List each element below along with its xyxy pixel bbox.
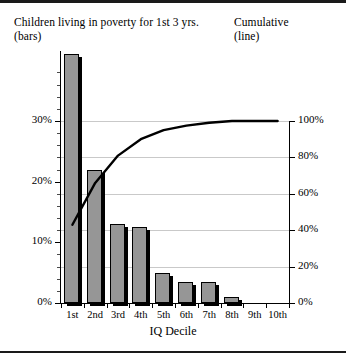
y-axis-left-line <box>60 51 61 304</box>
y-axis-left-tick-label: 0% <box>37 295 52 307</box>
x-axis-tick <box>289 304 290 308</box>
y-axis-right-line <box>289 121 290 304</box>
y-axis-right-tick-label: 0% <box>298 295 313 307</box>
y-axis-left-minor-tick <box>57 218 60 219</box>
y-axis-left-minor-tick <box>57 194 60 195</box>
x-axis-tick-label: 6th <box>175 309 198 320</box>
chart-figure: Children living in poverty for 1st 3 yrs… <box>0 0 346 353</box>
y-axis-left-minor-tick <box>57 109 60 110</box>
x-axis-tick-label: 9th <box>243 309 266 320</box>
y-axis-left-minor-tick <box>57 157 60 158</box>
y-axis-right-tick <box>290 157 295 158</box>
x-axis-tick <box>221 304 222 308</box>
y-axis-right-tick <box>290 194 295 195</box>
y-axis-left-minor-tick <box>57 170 60 171</box>
x-axis-tick-label: 3rd <box>107 309 130 320</box>
x-axis-tick-label: 8th <box>221 309 244 320</box>
chart-title-line-line1: Cumulative <box>234 16 289 28</box>
bar <box>132 227 147 303</box>
y-axis-left-minor-tick <box>57 206 60 207</box>
x-axis-tick <box>266 304 267 308</box>
y-axis-left-minor-tick <box>57 145 60 146</box>
y-axis-left-tick-label: 30% <box>32 113 52 125</box>
y-axis-right-tick <box>290 267 295 268</box>
x-axis-tick <box>175 304 176 308</box>
y-axis-right-tick <box>290 121 295 122</box>
bar <box>178 282 193 303</box>
bar <box>201 282 216 303</box>
x-axis-title: IQ Decile <box>0 324 346 339</box>
y-axis-right-tick-label: 80% <box>298 149 318 161</box>
y-axis-left-tick <box>55 242 60 243</box>
chart-title-line-line2: (line) <box>234 29 289 43</box>
x-axis-tick <box>243 304 244 308</box>
x-axis-tick-label: 1st <box>61 309 84 320</box>
x-axis-tick-label: 2nd <box>84 309 107 320</box>
gridline <box>61 121 289 122</box>
y-axis-right-tick <box>290 230 295 231</box>
x-axis-tick-label: 10th <box>266 309 289 320</box>
chart-title-bars: Children living in poverty for 1st 3 yrs… <box>14 15 199 43</box>
y-axis-left-minor-tick <box>57 291 60 292</box>
x-axis-tick <box>198 304 199 308</box>
x-axis-tick <box>84 304 85 308</box>
x-axis-tick-label: 7th <box>198 309 221 320</box>
x-axis-tick <box>152 304 153 308</box>
y-axis-right-tick <box>290 303 295 304</box>
chart-title-bars-line1: Children living in poverty for 1st 3 yrs… <box>14 16 199 28</box>
y-axis-left-minor-tick <box>57 279 60 280</box>
y-axis-left-tick-label: 20% <box>32 174 52 186</box>
y-axis-left-minor-tick <box>57 230 60 231</box>
y-axis-left-minor-tick <box>57 97 60 98</box>
x-axis-tick <box>107 304 108 308</box>
y-axis-left-tick <box>55 121 60 122</box>
bar <box>64 54 79 303</box>
bar <box>155 273 170 303</box>
bar <box>110 224 125 303</box>
x-axis-tick <box>129 304 130 308</box>
y-axis-left-tick <box>55 303 60 304</box>
y-axis-right-tick-label: 40% <box>298 222 318 234</box>
chart-title-line: Cumulative (line) <box>234 15 289 43</box>
y-axis-left-minor-tick <box>57 254 60 255</box>
y-axis-right-tick-label: 100% <box>298 113 324 125</box>
y-axis-right-tick-label: 20% <box>298 259 318 271</box>
y-axis-right-tick-label: 60% <box>298 186 318 198</box>
y-axis-left-tick <box>55 182 60 183</box>
y-axis-left-minor-tick <box>57 72 60 73</box>
y-axis-left-tick-label: 10% <box>32 234 52 246</box>
x-axis-tick-label: 4th <box>129 309 152 320</box>
chart-title-bars-line2: (bars) <box>14 29 199 43</box>
y-axis-left-minor-tick <box>57 267 60 268</box>
bar <box>87 170 102 303</box>
y-axis-left-minor-tick <box>57 133 60 134</box>
bar <box>224 297 239 303</box>
y-axis-left-minor-tick <box>57 85 60 86</box>
x-axis-tick-label: 5th <box>152 309 175 320</box>
x-axis-tick <box>61 304 62 308</box>
gridline <box>61 157 289 158</box>
